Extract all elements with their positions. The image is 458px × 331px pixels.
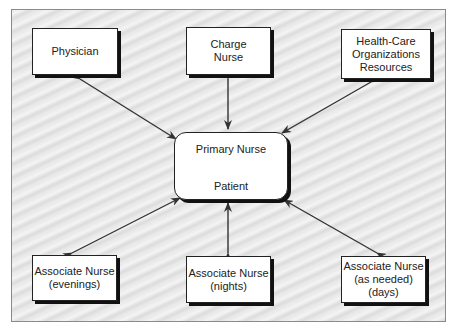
node-label: Nurse [214, 51, 243, 64]
node-label: (nights) [210, 280, 247, 293]
node-label: Resources [360, 61, 413, 74]
node-charge-nurse: Charge Nurse [186, 27, 271, 75]
node-associate-nights: Associate Nurse (nights) [186, 256, 271, 303]
node-health-care: Health-Care Organizations Resources [341, 29, 431, 79]
arrow-physician [80, 79, 176, 139]
node-label: Associate Nurse [34, 265, 114, 278]
node-label: Physician [51, 45, 98, 58]
arrow-associate-evenings [72, 198, 180, 253]
node-associate-evenings: Associate Nurse (evenings) [32, 255, 117, 301]
arrow-health-care [282, 82, 371, 133]
node-label: (evenings) [49, 278, 100, 291]
patient-label: Patient [214, 180, 248, 193]
node-label: (as needed) [354, 273, 413, 286]
node-physician: Physician [32, 28, 118, 75]
primary-nurse-label: Primary Nurse [196, 143, 266, 156]
node-primary-nurse-patient: Primary Nurse Patient [174, 132, 288, 200]
node-label: Associate Nurse [188, 267, 268, 280]
node-label: Charge [210, 38, 246, 51]
node-label: (days) [368, 286, 399, 299]
node-label: Organizations [352, 48, 420, 61]
node-associate-days: Associate Nurse (as needed) (days) [341, 256, 426, 303]
node-label: Associate Nurse [343, 260, 423, 273]
node-label: Health-Care [356, 35, 415, 48]
arrow-associate-days [284, 200, 377, 253]
